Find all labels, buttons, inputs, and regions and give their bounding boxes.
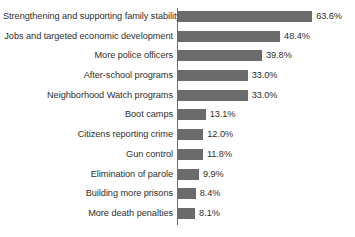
- bar-track: 12.0%: [178, 129, 355, 140]
- category-label: More death penalties: [3, 207, 173, 219]
- bar-row: Jobs and targeted economic development48…: [0, 31, 355, 42]
- bar-track: 8.4%: [178, 188, 355, 199]
- category-label: Elimination of parole: [3, 168, 173, 180]
- value-label: 9.9%: [203, 168, 224, 180]
- bar-row: After-school programs33.0%: [0, 70, 355, 81]
- bar-row: Elimination of parole9.9%: [0, 169, 355, 180]
- value-label: 63.6%: [316, 10, 342, 22]
- plot-area: Strengthening and supporting family stab…: [0, 0, 355, 237]
- bar-track: 33.0%: [178, 90, 355, 101]
- value-label: 33.0%: [252, 69, 278, 81]
- bar-row: Boot camps13.1%: [0, 109, 355, 120]
- bar-row: Building more prisons8.4%: [0, 188, 355, 199]
- bar-row: Neighborhood Watch programs33.0%: [0, 90, 355, 101]
- category-label: Boot camps: [3, 108, 173, 120]
- bar: [178, 129, 203, 140]
- bar-track: 39.8%: [178, 50, 355, 61]
- category-label: After-school programs: [3, 69, 173, 81]
- bar-row: More police officers39.8%: [0, 50, 355, 61]
- value-label: 39.8%: [266, 49, 292, 61]
- bar-row: Strengthening and supporting family stab…: [0, 11, 355, 22]
- bar-track: 13.1%: [178, 109, 355, 120]
- category-label: Jobs and targeted economic development: [3, 30, 173, 42]
- category-label: More police officers: [3, 49, 173, 61]
- bar: [178, 70, 248, 81]
- category-label: Citizens reporting crime: [3, 128, 173, 140]
- bar: [178, 188, 196, 199]
- bar: [178, 208, 195, 219]
- bar-track: 48.4%: [178, 31, 355, 42]
- value-label: 12.0%: [207, 128, 233, 140]
- bar-track: 9.9%: [178, 169, 355, 180]
- category-label: Gun control: [3, 148, 173, 160]
- bar-track: 8.1%: [178, 208, 355, 219]
- value-label: 13.1%: [210, 108, 236, 120]
- bar-row: More death penalties8.1%: [0, 208, 355, 219]
- category-label: Neighborhood Watch programs: [3, 89, 173, 101]
- bar: [178, 90, 248, 101]
- value-label: 33.0%: [252, 89, 278, 101]
- value-label: 8.1%: [199, 207, 220, 219]
- value-label: 48.4%: [284, 30, 310, 42]
- bar-track: 33.0%: [178, 70, 355, 81]
- bar-rows: Strengthening and supporting family stab…: [0, 11, 355, 228]
- bar: [178, 11, 312, 22]
- bar-track: 11.8%: [178, 149, 355, 160]
- bar-row: Gun control11.8%: [0, 149, 355, 160]
- bar: [178, 169, 199, 180]
- bar-chart: Strengthening and supporting family stab…: [0, 0, 355, 237]
- value-label: 11.8%: [207, 148, 232, 160]
- bar-row: Citizens reporting crime12.0%: [0, 129, 355, 140]
- bar: [178, 50, 262, 61]
- bar: [178, 31, 280, 42]
- bar-track: 63.6%: [178, 11, 355, 22]
- bar: [178, 109, 206, 120]
- category-label: Strengthening and supporting family stab…: [3, 10, 173, 22]
- bar: [178, 149, 203, 160]
- value-label: 8.4%: [200, 187, 221, 199]
- category-label: Building more prisons: [3, 187, 173, 199]
